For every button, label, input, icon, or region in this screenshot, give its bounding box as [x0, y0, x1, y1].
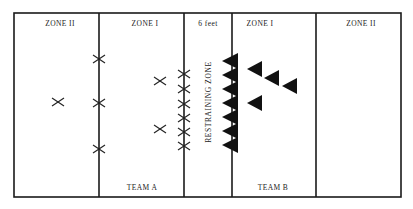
triangle-icon: [222, 95, 238, 111]
x-mark-icon: [154, 125, 166, 133]
zone-label-b-zone2: ZONE II: [346, 19, 376, 28]
restraining-zone-label: RESTRAINING ZONE: [204, 61, 213, 142]
triangle-icon: [222, 123, 238, 139]
x-mark-icon: [52, 98, 64, 106]
team-a-label: TEAM A: [127, 183, 158, 192]
zone-label-a-zone1: ZONE I: [132, 19, 159, 28]
zone-label-a-zone2: ZONE II: [45, 19, 75, 28]
zone-label-b-zone1: ZONE I: [247, 19, 274, 28]
triangle-icon: [247, 95, 262, 111]
team-a-players: [52, 55, 190, 153]
field-diagram: ZONE II ZONE I 6 feet ZONE I ZONE II RES…: [0, 0, 413, 209]
triangle-icon: [222, 81, 238, 97]
triangle-icon: [222, 137, 238, 153]
x-mark-icon: [154, 77, 166, 85]
restraining-width-label: 6 feet: [198, 19, 218, 28]
triangle-icon: [222, 109, 238, 125]
triangle-icon: [282, 78, 297, 94]
triangle-icon: [222, 53, 238, 69]
team-b-players: [222, 53, 297, 153]
triangle-icon: [222, 67, 238, 83]
team-b-label: TEAM B: [258, 183, 289, 192]
triangle-icon: [247, 61, 262, 77]
triangle-icon: [264, 70, 279, 86]
